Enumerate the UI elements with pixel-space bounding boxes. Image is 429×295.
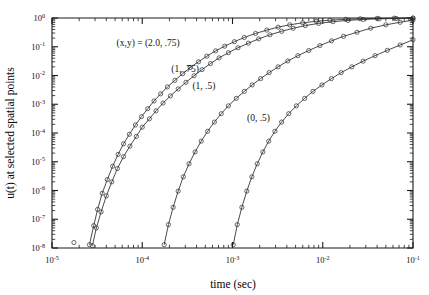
y-tick-label: 10-5	[31, 155, 45, 167]
data-series	[162, 18, 415, 247]
x-tick-label: 10-4	[135, 254, 149, 266]
x-axis-tick-labels: 10-510-410-310-210-1	[45, 254, 420, 266]
stray-data-point	[72, 240, 76, 244]
y-tick-label: 10-8	[31, 242, 45, 254]
data-series	[87, 16, 415, 247]
data-curves	[87, 16, 415, 248]
y-axis-tick-labels: 10010-110-210-310-410-510-610-710-8	[31, 12, 45, 254]
x-tick-label: 10-2	[316, 254, 330, 266]
y-tick-label: 100	[33, 12, 45, 24]
series-annotation-3: (0, .5)	[247, 113, 270, 124]
x-tick-label: 10-3	[226, 254, 240, 266]
y-tick-label: 10-7	[31, 213, 45, 225]
series-annotation-1: (1, .75)	[171, 64, 199, 75]
y-tick-label: 10-4	[31, 127, 45, 139]
curve-annotations: (x,y) = (2.0, .75)(1, .75)(1, .5)(0, .5)	[117, 38, 270, 125]
stray-data-points	[72, 240, 76, 244]
figure-container: 10-510-410-310-210-1 10010-110-210-310-4…	[0, 0, 429, 295]
y-axis-title: u(t) at selected spatial points	[4, 67, 17, 199]
x-tick-label: 10-1	[406, 254, 420, 266]
y-tick-label: 10-2	[31, 69, 45, 81]
y-tick-label: 10-6	[31, 184, 45, 196]
series-annotation-2: (1, .5)	[192, 81, 215, 92]
plot-axes	[52, 18, 413, 248]
y-tick-label: 10-3	[31, 98, 45, 110]
x-tick-label: 10-5	[45, 254, 59, 266]
data-series	[231, 38, 415, 247]
x-axis-title: time (sec)	[210, 278, 256, 291]
data-series	[90, 16, 415, 248]
log-log-plot: 10-510-410-310-210-1 10010-110-210-310-4…	[0, 0, 429, 295]
series-annotation-0: (x,y) = (2.0, .75)	[117, 38, 180, 49]
y-tick-label: 10-1	[31, 40, 45, 52]
